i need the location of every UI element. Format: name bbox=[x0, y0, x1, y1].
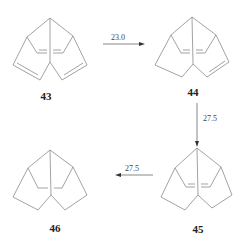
rate-label-45-46: 27.5 bbox=[125, 164, 139, 173]
reaction-scheme: 43 23.0 44 27.5 45 27.5 bbox=[0, 0, 245, 244]
molecule-46 bbox=[13, 150, 87, 210]
arrow-45-to-46 bbox=[115, 173, 153, 177]
arrow-44-to-45 bbox=[195, 103, 199, 147]
arrow-43-to-44 bbox=[103, 42, 145, 46]
rate-label-44-45: 27.5 bbox=[203, 114, 217, 123]
compound-label-44: 44 bbox=[188, 86, 200, 98]
molecule-45 bbox=[161, 148, 232, 210]
compound-label-45: 45 bbox=[193, 223, 205, 235]
compound-label-46: 46 bbox=[50, 222, 62, 234]
compound-label-43: 43 bbox=[41, 90, 53, 102]
rate-label-43-44: 23.0 bbox=[111, 33, 125, 42]
molecule-43 bbox=[13, 18, 87, 80]
molecule-44 bbox=[155, 17, 229, 77]
